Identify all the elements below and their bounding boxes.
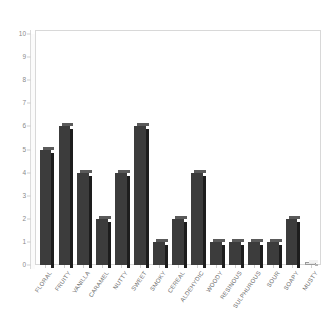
- bar-sour[interactable]: [267, 242, 279, 265]
- y-axis-tick-label: 2: [0, 216, 26, 223]
- y-axis-tick-mark: [27, 34, 31, 35]
- x-axis-tick-mark: [254, 265, 255, 268]
- bar-slot: [305, 34, 317, 265]
- bar-slot: [172, 34, 184, 265]
- bar-slot: [59, 34, 71, 265]
- y-axis-tick-label: 3: [0, 192, 26, 199]
- bar-floral[interactable]: [40, 150, 52, 266]
- bar-sulphurous[interactable]: [248, 242, 260, 265]
- x-axis-tick-mark: [102, 265, 103, 268]
- y-axis-tick-mark: [27, 149, 31, 150]
- x-axis-label: FLORAL: [34, 270, 53, 294]
- x-axis-label: SOUR: [265, 270, 280, 288]
- bar-woody[interactable]: [210, 242, 222, 265]
- y-axis-tick-mark: [27, 126, 31, 127]
- x-axis-label: CARAMEL: [88, 270, 110, 298]
- bar-slot: [248, 34, 260, 265]
- bar-slot: [77, 34, 89, 265]
- bar-soapy[interactable]: [286, 219, 298, 265]
- bar-slot: [229, 34, 241, 265]
- bar-nutty[interactable]: [115, 173, 127, 265]
- x-axis-tick-mark: [121, 265, 122, 268]
- x-axis-label: WOODY: [205, 270, 224, 293]
- y-axis-tick-mark: [27, 265, 31, 266]
- y-axis-tick-label: 8: [0, 77, 26, 84]
- y-axis-tick-label: 4: [0, 169, 26, 176]
- x-axis-tick-mark: [197, 265, 198, 268]
- x-axis-tick-mark: [273, 265, 274, 268]
- x-axis-tick-mark: [83, 265, 84, 268]
- y-axis: 012345678910: [0, 30, 35, 265]
- bar-cereal[interactable]: [172, 219, 184, 265]
- bar-slot: [191, 34, 203, 265]
- x-axis-tick-mark: [292, 265, 293, 268]
- x-axis-tick-mark: [216, 265, 217, 268]
- bar-fruity[interactable]: [59, 126, 71, 265]
- x-axis-label: SMOKY: [149, 270, 167, 292]
- x-axis-label: SULPHUROUS: [232, 270, 262, 309]
- x-axis-tick-mark: [140, 265, 141, 268]
- x-axis-tick-mark: [311, 265, 312, 268]
- y-axis-tick-label: 9: [0, 54, 26, 61]
- bar-resinous[interactable]: [229, 242, 241, 265]
- bar-slot: [153, 34, 165, 265]
- x-axis-label: CEREAL: [167, 270, 186, 294]
- bar-slot: [115, 34, 127, 265]
- y-axis-tick-mark: [27, 241, 31, 242]
- x-axis-label: FRUITY: [54, 270, 72, 292]
- bar-aldehydic[interactable]: [191, 173, 203, 265]
- bar-slot: [210, 34, 222, 265]
- y-axis-tick-mark: [27, 103, 31, 104]
- bar-slot: [96, 34, 108, 265]
- bar-slot: [267, 34, 279, 265]
- y-axis-tick-label: 6: [0, 123, 26, 130]
- y-axis-tick-mark: [27, 218, 31, 219]
- bars-layer: [36, 34, 320, 265]
- x-axis-label: NUTTY: [112, 270, 129, 291]
- bar-sweet[interactable]: [134, 126, 146, 265]
- bar-smoky[interactable]: [153, 242, 165, 265]
- x-axis-tick-mark: [235, 265, 236, 268]
- bar-slot: [134, 34, 146, 265]
- bar-slot: [40, 34, 52, 265]
- x-axis-tick-mark: [178, 265, 179, 268]
- x-axis-label: SWEET: [130, 270, 148, 292]
- x-axis-tick-mark: [64, 265, 65, 268]
- y-axis-tick-label: 10: [0, 31, 26, 38]
- x-axis-label: SOAPY: [282, 270, 299, 291]
- y-axis-tick-label: 7: [0, 100, 26, 107]
- y-axis-tick-label: 0: [0, 262, 26, 269]
- bar-vanilla[interactable]: [77, 173, 89, 265]
- x-axis-label: RESINOUS: [219, 270, 243, 300]
- x-axis-tick-mark: [45, 265, 46, 268]
- bar-chart: 012345678910 FLORALFRUITYVANILLACARAMELN…: [0, 0, 330, 329]
- y-axis-tick-label: 5: [0, 146, 26, 153]
- y-axis-tick-mark: [27, 80, 31, 81]
- y-axis-tick-mark: [27, 57, 31, 58]
- x-axis-label: ALDEHYDIC: [179, 270, 205, 303]
- y-axis-tick-mark: [27, 195, 31, 196]
- x-axis-tick-mark: [159, 265, 160, 268]
- x-axis-label: VANILLA: [72, 270, 92, 294]
- bar-caramel[interactable]: [96, 219, 108, 265]
- y-axis-tick-mark: [27, 172, 31, 173]
- y-axis-tick-label: 1: [0, 239, 26, 246]
- x-axis-label: MUSTY: [301, 270, 319, 291]
- bar-slot: [286, 34, 298, 265]
